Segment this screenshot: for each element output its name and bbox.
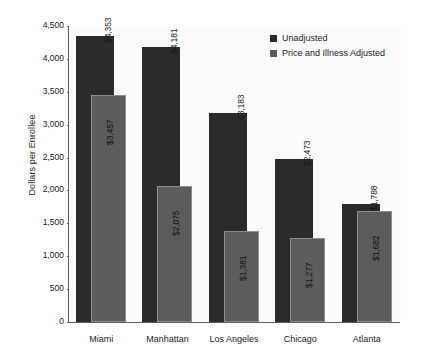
bar-chart: Dollars per Enrollee 05001,0001,5002,000… xyxy=(0,0,425,364)
legend-item-unadjusted[interactable]: Unadjusted xyxy=(270,33,385,43)
bar-value-label-unadjusted: $4,181 xyxy=(169,29,179,54)
y-axis-tick-label: 2,500 xyxy=(43,152,64,162)
bar-price-and-illness-adjusted[interactable] xyxy=(157,186,192,322)
legend-swatch-icon xyxy=(270,50,277,57)
y-axis-tick-label: 1,000 xyxy=(43,250,64,260)
x-axis-line xyxy=(68,322,400,323)
bar-value-label-price-and-illness-adjusted: $1,277 xyxy=(304,263,314,288)
legend-item-label: Price and Illness Adjusted xyxy=(282,48,385,58)
x-axis-category-label: Atlanta xyxy=(334,334,400,344)
x-axis-category-label: Los Angeles xyxy=(201,334,267,344)
bar-value-label-unadjusted: $3,183 xyxy=(236,94,246,119)
x-axis-category-label: Chicago xyxy=(267,334,333,344)
y-axis-tick-label: 1,500 xyxy=(43,217,64,227)
chart-legend: Unadjusted Price and Illness Adjusted xyxy=(270,33,385,63)
y-axis-tick-label: 2,000 xyxy=(43,184,64,194)
y-axis-tick-label: 4,000 xyxy=(43,53,64,63)
legend-item-price-and-illness-adjusted[interactable]: Price and Illness Adjusted xyxy=(270,48,385,58)
bar-price-and-illness-adjusted[interactable] xyxy=(357,211,392,322)
y-axis-title: Dollars per Enrollee xyxy=(27,85,37,225)
bar-value-label-price-and-illness-adjusted: $2,075 xyxy=(171,210,181,235)
y-axis-tick-label: 500 xyxy=(50,283,64,293)
bar-value-label-price-and-illness-adjusted: $3,457 xyxy=(105,119,115,144)
bar-value-label-price-and-illness-adjusted: $1,381 xyxy=(238,256,248,281)
y-axis-tick-label: 0 xyxy=(59,316,64,326)
legend-swatch-icon xyxy=(270,35,277,42)
y-axis-tick-label: 4,500 xyxy=(43,20,64,30)
y-axis-tick-label: 3,500 xyxy=(43,86,64,96)
legend-item-label: Unadjusted xyxy=(282,33,328,43)
bar-value-label-unadjusted: $4,353 xyxy=(103,17,113,42)
x-axis-category-label: Manhattan xyxy=(134,334,200,344)
x-axis-category-label: Miami xyxy=(68,334,134,344)
y-axis-tick-label: 3,000 xyxy=(43,119,64,129)
plot-area: $4,353$3,457$4,181$2,075$3,183$1,381$2,4… xyxy=(68,26,401,322)
bar-value-label-unadjusted: $2,473 xyxy=(302,141,312,166)
bar-value-label-unadjusted: $1,788 xyxy=(369,186,379,211)
bar-value-label-price-and-illness-adjusted: $1,682 xyxy=(371,236,381,261)
